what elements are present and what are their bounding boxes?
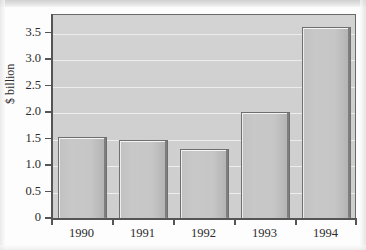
x-axis-tick-label: 1993: [235, 226, 295, 241]
x-axis-tick: [234, 218, 236, 225]
bar-1994: [303, 28, 350, 219]
y-axis-title: $ billion: [3, 64, 18, 104]
x-axis-tick-label: 1990: [52, 226, 112, 241]
y-axis-tick: [45, 191, 51, 193]
x-axis-tick: [355, 218, 357, 225]
y-axis-tick: [45, 164, 51, 166]
y-axis-tick-label: 0: [0, 210, 41, 225]
x-axis-tick: [51, 218, 53, 225]
bar-1990: [59, 138, 106, 219]
x-axis-tick-label: 1994: [296, 226, 356, 241]
y-axis-tick-label: 1.0: [0, 157, 41, 172]
x-axis-tick: [112, 218, 114, 225]
x-axis-tick: [295, 218, 297, 225]
y-axis-tick: [45, 85, 51, 87]
bar-1991: [120, 141, 167, 219]
bar-1993: [242, 113, 289, 219]
y-axis-tick: [45, 138, 51, 140]
bar-chart: 00.51.01.52.02.53.03.5 19901991199219931…: [0, 0, 366, 250]
y-axis-line: [51, 14, 53, 219]
scan-artifact-right: [360, 0, 366, 250]
y-axis-tick-label: 3.5: [0, 25, 41, 40]
y-axis-tick: [45, 111, 51, 113]
y-axis-tick: [45, 32, 51, 34]
bar-1992: [181, 150, 228, 219]
x-axis-tick-label: 1992: [174, 226, 234, 241]
x-axis-tick: [173, 218, 175, 225]
plot-area: [51, 14, 356, 218]
x-axis-line: [51, 218, 356, 220]
y-axis-tick-label: 1.5: [0, 131, 41, 146]
x-axis-tick-label: 1991: [113, 226, 173, 241]
y-axis-tick-label: 2.0: [0, 104, 41, 119]
y-axis-tick-label: 0.5: [0, 184, 41, 199]
scan-artifact-bottom: [0, 245, 366, 250]
scan-artifact-top: [0, 0, 366, 7]
y-axis-tick: [45, 58, 51, 60]
